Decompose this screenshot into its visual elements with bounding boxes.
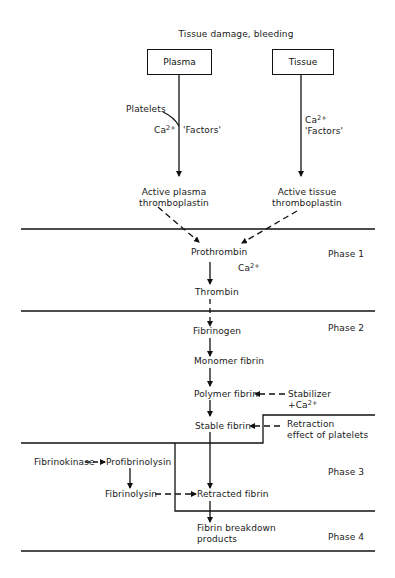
phase4-label: Phase 4 bbox=[328, 532, 364, 543]
stabilizer-label: Stabilizer +Ca2+ bbox=[288, 389, 331, 411]
phase2-label: Phase 2 bbox=[328, 323, 364, 334]
tissue-factors-label: 'Factors' bbox=[305, 126, 343, 137]
stable-fibrin-label: Stable fibrin bbox=[195, 421, 251, 432]
thrombin-label: Thrombin bbox=[195, 287, 239, 298]
plasma-calcium-label: Ca2+ bbox=[154, 125, 176, 136]
phase1-label: Phase 1 bbox=[328, 249, 364, 260]
active-plasma-thromboplastin: Active plasma thromboplastin bbox=[139, 187, 209, 209]
platelets-label: Platelets bbox=[126, 104, 166, 115]
tissue-box: Tissue bbox=[272, 49, 334, 75]
active-tissue-thromboplastin: Active tissue thromboplastin bbox=[272, 187, 342, 209]
plasma-factors-label: 'Factors' bbox=[183, 125, 221, 136]
retraction-label: Retraction effect of platelets bbox=[287, 419, 368, 441]
polymer-fibrin-label: Polymer fibrin bbox=[194, 389, 258, 400]
retracted-fibrin-label: Retracted fibrin bbox=[197, 489, 269, 500]
plasma-thromboplastin-arrow bbox=[158, 207, 199, 242]
tissue-thromboplastin-arrow bbox=[242, 211, 297, 243]
fibrinogen-label: Fibrinogen bbox=[193, 326, 241, 337]
fibrin-breakdown-label: Fibrin breakdown products bbox=[197, 523, 276, 545]
fibrinolysin-label: Fibrinolysin bbox=[105, 489, 157, 500]
tissue-calcium-label: Ca2+ bbox=[305, 115, 327, 126]
plasma-label: Plasma bbox=[163, 57, 195, 67]
prothrombin-label: Prothrombin bbox=[191, 247, 247, 258]
tissue-label: Tissue bbox=[289, 57, 317, 67]
diagram-title: Tissue damage, bleeding bbox=[179, 29, 294, 40]
profibrinolysin-label: Profibrinolysin bbox=[106, 457, 171, 468]
plasma-box: Plasma bbox=[147, 49, 212, 75]
monomer-fibrin-label: Monomer fibrin bbox=[194, 356, 264, 367]
fibrinokinase-label: Fibrinokinase bbox=[34, 457, 95, 468]
phase1-calcium-label: Ca2+ bbox=[238, 263, 260, 274]
phase3-label: Phase 3 bbox=[328, 467, 364, 478]
